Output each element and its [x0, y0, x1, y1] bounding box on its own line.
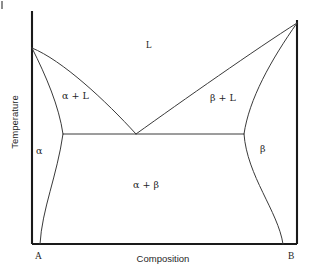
solvus-curve-alpha [40, 134, 63, 244]
region-label-alpha-plus-liquid: α + L [62, 90, 89, 101]
region-label-liquid: L [146, 40, 152, 50]
phase-diagram-canvas: L α + L β + L α β α + β Temperature Comp… [0, 0, 313, 276]
x-axis-endpoint-label-a: A [35, 251, 42, 261]
liquidus-curve-beta-side [136, 23, 297, 134]
x-axis-title: Composition [137, 253, 190, 264]
solidus-curve-alpha [32, 48, 63, 134]
phase-diagram-figure: L α + L β + L α β α + β Temperature Comp… [0, 0, 313, 276]
region-label-beta-plus-liquid: β + L [210, 92, 236, 103]
region-label-beta: β [260, 143, 266, 154]
region-label-alpha: α [36, 145, 43, 156]
region-label-alpha-plus-beta: α + β [133, 179, 159, 190]
x-axis-endpoint-label-b: B [288, 251, 294, 261]
y-axis-title: Temperature [9, 95, 20, 148]
